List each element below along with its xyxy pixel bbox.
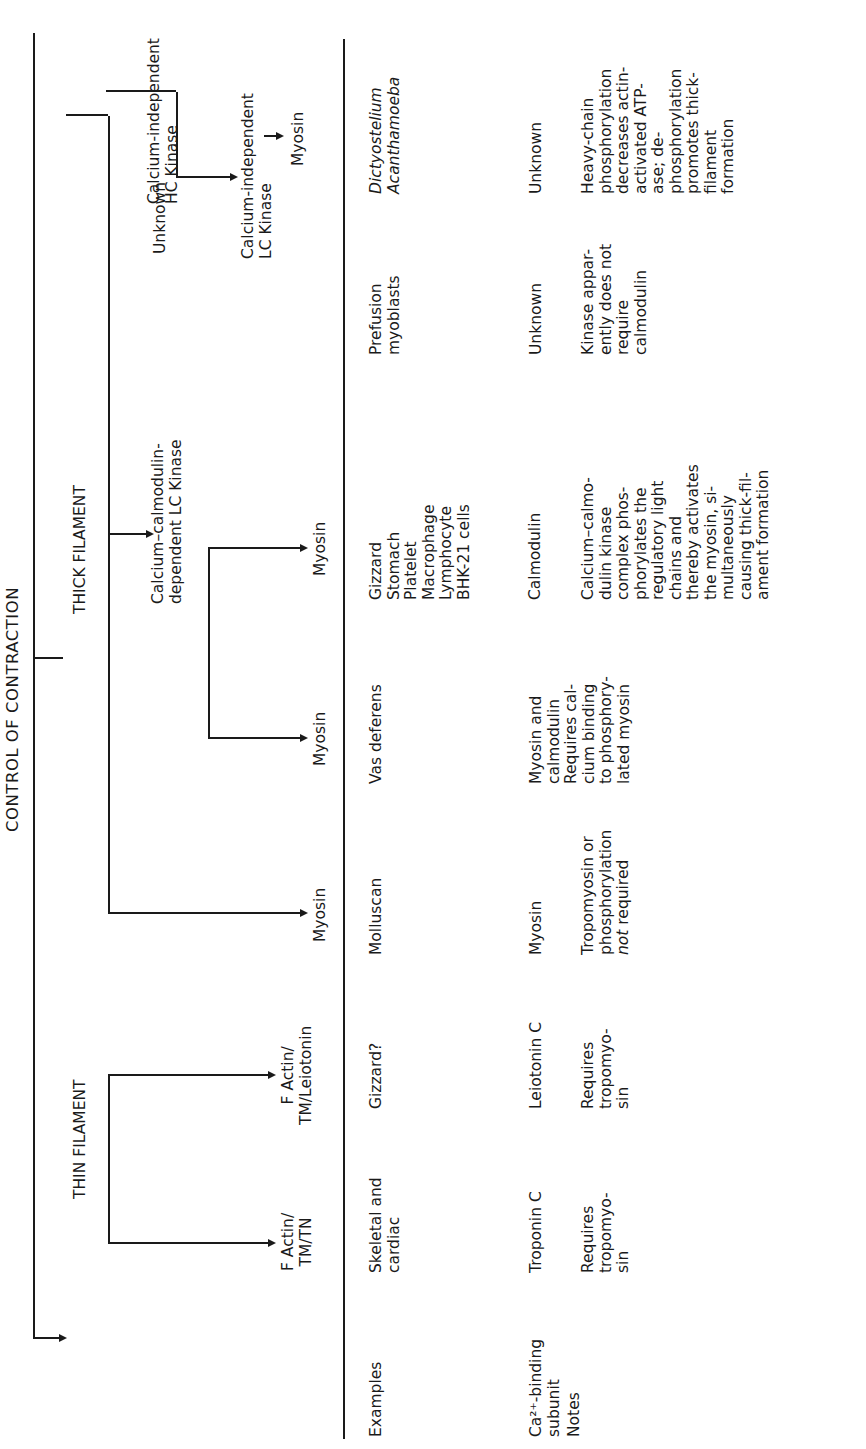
row-label-notes: Notes <box>566 1392 584 1437</box>
arrow-down-icon <box>276 132 284 140</box>
unknown-to-lc-line <box>176 176 234 178</box>
notes-cell: Heavy-chain phosphorylation decreases ac… <box>580 67 738 194</box>
column-header-molluscan-myosin: Myosin <box>312 888 330 942</box>
examples-cell: Vas deferens <box>368 684 386 784</box>
thick-to-unknown-line <box>66 114 108 116</box>
thick-filament-label: THICK FILAMENT <box>72 485 90 614</box>
ca-binding-cell: Calmodulin <box>527 513 545 600</box>
examples-dictyostelium: Dictyostelium <box>367 87 385 194</box>
row-label-examples: Examples <box>368 1362 386 1437</box>
notes-text: required <box>614 860 632 930</box>
thin-branch-line <box>108 1074 110 1244</box>
thick-to-calmodulin-line <box>108 533 150 535</box>
examples-cell: Gizzard Stomach Platelet Macrophage Lymp… <box>368 504 473 600</box>
examples-cell: Skeletal and cardiac <box>368 1177 403 1273</box>
row-label-ca-binding-subunit: Ca²⁺-binding subunit <box>528 1339 563 1437</box>
arrow-down-icon <box>268 1239 276 1247</box>
arrow-down-icon <box>59 1334 67 1342</box>
examples-cell: Prefusion myoblasts <box>368 275 403 355</box>
thin-filament-label: THIN FILAMENT <box>72 1079 90 1199</box>
ca-binding-cell: Unknown <box>528 283 546 355</box>
notes-cell: Requires cal- cium binding to phosphory-… <box>563 676 633 784</box>
ca-binding-cell: Myosin and calmodulin <box>528 696 563 784</box>
column-header-vas-deferens-myosin: Myosin <box>312 712 330 766</box>
notes-cell: Requires tropomyo- sin <box>580 1028 633 1109</box>
arrow-down-icon <box>300 909 308 917</box>
column-header-prefusion-myosin: Myosin <box>290 112 308 166</box>
thin-to-leiotonin-line <box>108 1074 270 1076</box>
diagram-title: CONTROL OF CONTRACTION <box>4 587 22 832</box>
ca-binding-cell: Myosin <box>528 901 546 955</box>
ca-independent-lc-kinase-label: Calcium-independent LC Kinase <box>240 93 275 259</box>
calmodulin-lc-kinase-label: Calcium–calmodulin- dependent LC Kinase <box>150 439 185 604</box>
ca-independent-hc-kinase-label: Calcium-independent HC Kinase <box>146 38 181 204</box>
notes-cell: Requires tropomyo- sin <box>580 1192 633 1273</box>
thick-right-line <box>108 116 110 504</box>
root-to-molluscan-line <box>33 657 63 659</box>
arrow-down-icon <box>300 734 308 742</box>
arrow-down-icon <box>268 1071 276 1079</box>
notes-cell: Tropomyosin or phosphorylation not requi… <box>580 830 633 955</box>
column-header-gizzard-myosin: Myosin <box>312 522 330 576</box>
notes-text: Tropomyosin or phosphorylation <box>579 830 615 955</box>
examples-acanthamoeba: Acanthamoeba <box>385 77 403 194</box>
notes-cell: Kinase appar- ently does not require cal… <box>580 244 650 355</box>
calmodulin-to-vas-line <box>208 737 303 739</box>
ca-binding-cell: Leiotonin C <box>528 1022 546 1109</box>
thin-to-tmtn-line <box>108 1242 270 1244</box>
arrow-down-icon <box>230 173 238 181</box>
notes-emphasis: not <box>614 930 632 955</box>
calmodulin-branch-line <box>208 549 210 739</box>
examples-cell: Molluscan <box>368 878 386 955</box>
column-header-f-actin-tm-tn: F Actin/ TM/TN <box>280 1213 315 1271</box>
arrow-down-icon <box>300 544 308 552</box>
root-connector <box>33 33 35 1339</box>
calmodulin-to-gizzard-line <box>208 547 303 549</box>
notes-cell: Calcium–calmo- dulin kinase complex phos… <box>580 464 773 600</box>
table-rule <box>343 39 345 1439</box>
examples-cell: Gizzard? <box>368 1043 386 1109</box>
molluscan-drop <box>108 912 303 914</box>
examples-cell: Dictyostelium Acanthamoeba <box>368 77 403 194</box>
ca-binding-cell: Troponin C <box>528 1191 546 1273</box>
rotated-table-page: CONTROL OF CONTRACTION THIN FILAMENT THI… <box>0 0 866 1449</box>
ca-binding-cell: Unknown <box>528 122 546 194</box>
column-header-f-actin-tm-leiotonin: F Actin/ TM/Leiotonin <box>280 1026 315 1125</box>
